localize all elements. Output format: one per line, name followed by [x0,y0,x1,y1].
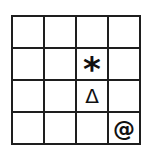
cell-r3-c4[interactable] [107,79,139,111]
game-board: * Δ @ [11,15,141,145]
cell-r1-c3[interactable] [75,15,107,47]
cell-r1-c4[interactable] [107,15,139,47]
cell-r3-c3[interactable]: Δ [75,79,107,111]
cell-r2-c4[interactable] [107,47,139,79]
cell-r3-c1[interactable] [11,79,43,111]
cell-r1-c1[interactable] [11,15,43,47]
cell-r4-c3[interactable] [75,111,107,143]
cell-r4-c1[interactable] [11,111,43,143]
cell-r2-c1[interactable] [11,47,43,79]
triangle-icon: Δ [85,86,99,106]
cell-r1-c2[interactable] [43,15,75,47]
cell-r2-c2[interactable] [43,47,75,79]
cell-r3-c2[interactable] [43,79,75,111]
cell-r4-c4[interactable]: @ [107,111,139,143]
cell-r4-c2[interactable] [43,111,75,143]
cell-r2-c3[interactable]: * [75,47,107,79]
at-sign-icon: @ [113,118,135,140]
